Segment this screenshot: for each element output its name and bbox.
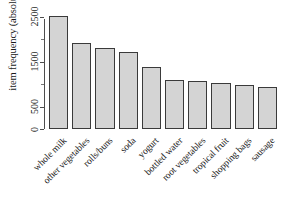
y-axis-tick bbox=[40, 129, 44, 130]
bar bbox=[235, 85, 254, 129]
y-axis-tick bbox=[40, 62, 44, 63]
bar bbox=[49, 16, 68, 129]
y-axis-minor-tick bbox=[41, 39, 44, 40]
y-axis-tick-label: 2500 bbox=[29, 0, 40, 37]
bar bbox=[188, 81, 207, 129]
y-axis-tick bbox=[40, 107, 44, 108]
bar bbox=[119, 52, 138, 129]
y-axis-tick-label: 1500 bbox=[29, 42, 40, 82]
y-axis-minor-tick bbox=[41, 84, 44, 85]
y-axis-line bbox=[44, 19, 45, 129]
bar bbox=[72, 43, 91, 129]
y-axis-tick-label: 500 bbox=[29, 87, 40, 127]
bar bbox=[258, 87, 277, 129]
bar bbox=[211, 83, 230, 129]
y-axis-tick bbox=[40, 17, 44, 18]
bar bbox=[142, 67, 161, 129]
bar bbox=[165, 80, 184, 129]
bar bbox=[95, 48, 114, 129]
bars-group bbox=[47, 12, 279, 129]
item-frequency-bar-chart: item frequency (absolute) 050015002500 w… bbox=[0, 0, 290, 202]
y-axis-title: item frequency (absolute) bbox=[6, 0, 20, 98]
